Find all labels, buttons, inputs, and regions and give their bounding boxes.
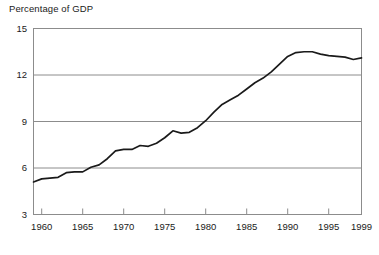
x-tick-label-1999: 1999 [342, 222, 379, 232]
x-tick-label-1985: 1985 [227, 222, 267, 232]
x-tick-label-1970: 1970 [104, 222, 144, 232]
x-tick-label-1980: 1980 [186, 222, 226, 232]
y-tick-label-15: 15 [5, 24, 27, 34]
data-series-line [34, 52, 362, 182]
y-tick-label-6: 6 [5, 163, 27, 173]
x-tick-label-1990: 1990 [268, 222, 308, 232]
x-tick-label-1960: 1960 [22, 222, 62, 232]
y-tick-label-9: 9 [5, 117, 27, 127]
line-chart-svg [0, 0, 379, 255]
plot-area: 3691215 19601965197019751980198519901995… [0, 0, 379, 255]
gridlines-group [34, 75, 362, 168]
chart-figure: Percentage of GDP 3691215 19601965197019… [0, 0, 379, 255]
x-axis-ticks-group [42, 209, 362, 215]
y-tick-label-3: 3 [5, 210, 27, 220]
x-tick-label-1975: 1975 [145, 222, 185, 232]
x-tick-label-1965: 1965 [63, 222, 103, 232]
y-tick-label-12: 12 [5, 70, 27, 80]
